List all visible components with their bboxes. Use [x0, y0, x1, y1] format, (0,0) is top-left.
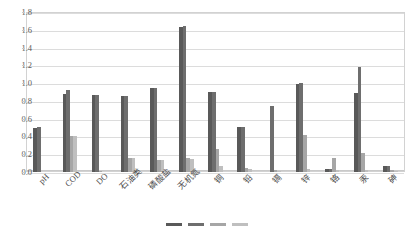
legend-swatch	[166, 223, 182, 226]
bar-group	[143, 12, 172, 172]
bar	[336, 170, 340, 172]
x-axis-label-cell: DO	[84, 174, 113, 224]
bar-group	[318, 12, 347, 172]
bar-group	[113, 12, 142, 172]
x-axis-tick-label: DO	[95, 172, 110, 187]
bar	[303, 135, 307, 172]
y-axis-tick-mark	[22, 48, 25, 49]
bar-group	[347, 12, 376, 172]
x-axis-tick-label: 铅	[241, 173, 254, 186]
bar-series-layer	[26, 12, 405, 172]
bar-group	[26, 12, 55, 172]
bar	[73, 136, 77, 172]
bar	[270, 106, 274, 172]
bar	[248, 169, 252, 172]
y-axis-tick-mark	[22, 65, 25, 66]
x-axis-label-cell: 磷酸盐	[143, 174, 172, 224]
x-axis-tick-label: pH	[37, 172, 51, 186]
x-axis-label-cell: COD	[55, 174, 84, 224]
x-axis-label-cell: 砷	[376, 174, 405, 224]
bar	[365, 170, 369, 172]
bar	[219, 166, 223, 172]
x-axis-tick-label: 砷	[387, 173, 400, 186]
legend-swatch	[188, 223, 204, 226]
x-axis-tick-label: 铬	[329, 173, 342, 186]
bar	[307, 169, 311, 172]
bar-group	[172, 12, 201, 172]
x-axis-tick-label: 铜	[212, 173, 225, 186]
x-axis-label-cell: 铜	[201, 174, 230, 224]
y-axis-tick-mark	[22, 101, 25, 102]
x-axis-label-cell: 铬	[318, 174, 347, 224]
bar-chart: 0.00.20.40.60.81.01.21.41.61.8 pHCODDO石油…	[0, 0, 414, 228]
y-axis-tick-mark	[22, 119, 25, 120]
x-axis-label-cell: pH	[26, 174, 55, 224]
bar-group	[230, 12, 259, 172]
x-axis-label-cell: 铅	[230, 174, 259, 224]
y-axis-tick-mark	[22, 154, 25, 155]
x-axis-label-cell: 汞	[347, 174, 376, 224]
x-axis-tick-label: 汞	[358, 173, 371, 186]
legend-swatch	[232, 223, 248, 226]
bar-group	[201, 12, 230, 172]
bar	[277, 171, 281, 172]
bar	[95, 95, 99, 172]
bar-group	[55, 12, 84, 172]
x-axis-labels: pHCODDO石油类磷酸盐无机氮铜铅镉锌铬汞砷	[26, 174, 405, 224]
x-axis-tick-label: 镉	[271, 173, 284, 186]
x-axis-tick-label: 锌	[300, 173, 313, 186]
y-axis-tick-mark	[22, 12, 25, 13]
x-axis-label-cell: 石油类	[113, 174, 142, 224]
legend-swatch	[210, 223, 226, 226]
bar	[37, 127, 41, 172]
x-axis-label-cell: 锌	[288, 174, 317, 224]
bar-group	[376, 12, 405, 172]
bar	[183, 26, 187, 172]
bar	[394, 171, 398, 172]
y-axis-tick-mark	[22, 83, 25, 84]
y-axis-tick-mark	[22, 172, 25, 173]
x-axis-label-cell: 无机氮	[172, 174, 201, 224]
bar-group	[84, 12, 113, 172]
bar-group	[288, 12, 317, 172]
chart-legend	[0, 221, 414, 227]
bar-group	[259, 12, 288, 172]
bar	[241, 127, 245, 172]
bar	[361, 153, 365, 172]
x-axis-label-cell: 镉	[259, 174, 288, 224]
y-axis-tick-mark	[22, 30, 25, 31]
y-axis-tick-mark	[22, 136, 25, 137]
